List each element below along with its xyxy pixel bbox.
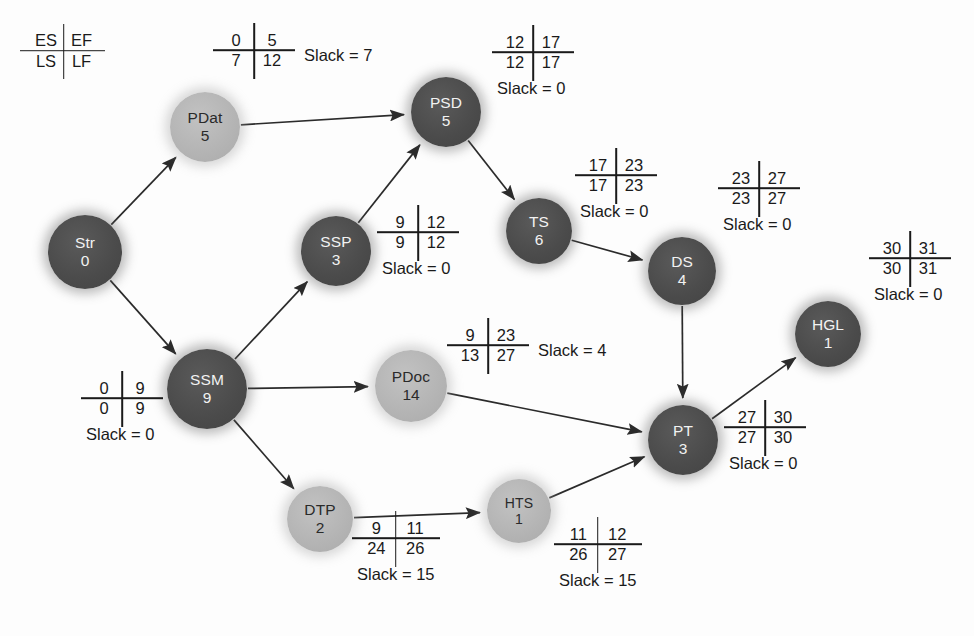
time-cell-grid: 05712: [218, 30, 290, 70]
time-cell-column: 9112426Slack = 15: [357, 518, 435, 584]
node-duration: 1: [824, 335, 833, 351]
time-cell-grid: 912912: [382, 212, 454, 252]
legend-es: ES: [28, 30, 64, 51]
cell-vertical-rule: [532, 25, 534, 81]
node-duration: 14: [402, 387, 419, 403]
late-finish-value: 30: [765, 427, 801, 447]
cell-vertical-rule: [909, 231, 911, 287]
time-cell-column: 30313031Slack = 0: [874, 238, 946, 304]
time-cell-column: 17231723Slack = 0: [580, 155, 652, 221]
early-finish-value: 11: [396, 518, 435, 538]
legend-ls: LS: [28, 51, 64, 72]
edge-str-to-ssm: [110, 280, 175, 354]
node-duration: 3: [332, 252, 341, 268]
node-hgl[interactable]: HGL1: [795, 301, 861, 367]
node-hts[interactable]: HTS1: [487, 479, 551, 543]
edge-ts-to-ds: [572, 240, 643, 260]
time-cell-psd: 12171217Slack = 0: [497, 32, 569, 98]
time-cell-grid: 9112426: [357, 518, 435, 558]
late-finish-value: 23: [616, 175, 652, 195]
early-finish-value: 12: [598, 524, 637, 544]
slack-label: Slack = 0: [382, 259, 454, 278]
time-cell-pdat: 05712Slack = 7: [218, 30, 372, 70]
early-finish-value: 30: [765, 407, 801, 427]
late-start-value: 7: [218, 50, 254, 70]
time-cell-column: 11122627Slack = 15: [559, 524, 637, 590]
node-pdat[interactable]: PDat5: [170, 92, 240, 162]
node-label: SSM: [190, 372, 224, 388]
node-pdoc[interactable]: PDoc14: [375, 350, 447, 422]
cell-vertical-rule: [417, 205, 419, 261]
node-duration: 6: [535, 232, 544, 248]
legend-grid: ES EF LS LF: [28, 30, 99, 71]
cell-vertical-rule: [764, 400, 766, 456]
node-ssm[interactable]: SSM9: [167, 349, 247, 429]
node-label: PSD: [430, 95, 462, 111]
early-finish-value: 23: [488, 325, 524, 345]
node-str[interactable]: Str0: [48, 215, 122, 289]
node-ssp[interactable]: SSP3: [301, 216, 371, 286]
late-start-value: 13: [452, 345, 488, 365]
late-finish-value: 31: [910, 258, 946, 278]
node-label: HGL: [812, 317, 844, 333]
slack-label: Slack = 4: [538, 341, 606, 360]
early-start-value: 23: [723, 168, 759, 188]
time-cell-grid: 11122627: [559, 524, 637, 564]
early-finish-value: 17: [533, 32, 569, 52]
late-start-value: 0: [86, 398, 122, 418]
time-cell-grid: 23272327: [723, 168, 795, 208]
legend-es-ef-ls-lf: ES EF LS LF: [28, 30, 99, 71]
late-finish-value: 27: [759, 188, 795, 208]
time-cell-column: 912912Slack = 0: [382, 212, 454, 278]
early-finish-value: 9: [122, 378, 158, 398]
node-duration: 4: [678, 272, 687, 288]
early-start-value: 9: [382, 212, 418, 232]
node-ds[interactable]: DS4: [648, 237, 716, 305]
edge-dtp-to-hts: [354, 513, 480, 518]
node-duration: 5: [442, 113, 451, 129]
time-cell-column: 27302730Slack = 0: [729, 407, 801, 473]
time-cell-column: 12171217Slack = 0: [497, 32, 569, 98]
node-label: PDat: [188, 110, 223, 126]
slack-label: Slack = 15: [357, 565, 435, 584]
time-cell-grid: 27302730: [729, 407, 801, 447]
time-cell-column: 0909Slack = 0: [86, 378, 158, 444]
cell-vertical-rule: [615, 148, 617, 204]
time-cell-grid: 0909: [86, 378, 158, 418]
late-start-value: 12: [497, 52, 533, 72]
late-finish-value: 26: [396, 538, 435, 558]
time-cell-dtp: 9112426Slack = 15: [357, 518, 435, 584]
node-label: PDoc: [392, 369, 430, 385]
time-cell-hgl: 30313031Slack = 0: [874, 238, 946, 304]
cell-vertical-rule: [395, 511, 397, 567]
early-start-value: 12: [497, 32, 533, 52]
node-ts[interactable]: TS6: [506, 198, 572, 264]
time-cell-pt: 27302730Slack = 0: [729, 407, 801, 473]
slack-label: Slack = 0: [86, 425, 158, 444]
cell-vertical-rule: [121, 371, 123, 427]
slack-label: Slack = 0: [729, 454, 801, 473]
late-finish-value: 27: [598, 544, 637, 564]
legend-vertical-rule: [63, 24, 65, 79]
node-label: DS: [671, 254, 693, 270]
slack-label: Slack = 0: [874, 285, 946, 304]
node-duration: 5: [201, 128, 210, 144]
node-duration: 0: [81, 253, 90, 269]
node-duration: 1: [515, 512, 523, 527]
network-diagram-canvas: ES EF LS LF Str0PDat5PSD5SSP3TS6DS4HGL1S…: [0, 0, 974, 636]
time-cell-hts: 11122627Slack = 15: [559, 524, 637, 590]
edge-hts-to-pt: [549, 457, 644, 498]
node-label: TS: [529, 214, 549, 230]
node-label: DTP: [304, 502, 335, 518]
edge-pdat-to-psd: [241, 115, 404, 125]
node-psd[interactable]: PSD5: [411, 77, 481, 147]
late-finish-value: 27: [488, 345, 524, 365]
time-cell-ds: 23272327Slack = 0: [723, 168, 795, 234]
early-finish-value: 5: [254, 30, 290, 50]
node-dtp[interactable]: DTP2: [287, 486, 353, 552]
cell-vertical-rule: [487, 318, 489, 374]
node-pt[interactable]: PT3: [648, 405, 718, 475]
late-start-value: 9: [382, 232, 418, 252]
cell-vertical-rule: [253, 23, 255, 79]
time-cell-ssp: 912912Slack = 0: [382, 212, 454, 278]
